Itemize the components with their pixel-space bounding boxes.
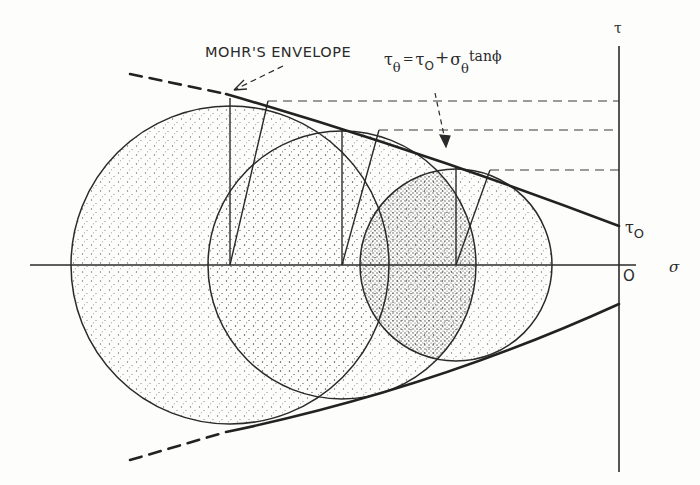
equation-arrowhead [440,135,450,147]
eq-sigma-sub: θ [461,61,469,76]
equation-leader [435,93,445,140]
eq-tau0-sub: O [424,59,433,73]
eq-equals: = [403,51,414,66]
tau-axis-label: τ [614,20,622,36]
eq-tan-phi: tanϕ [469,48,502,64]
eq-theta-sub: θ [393,60,401,75]
eq-tau: τ [384,50,393,69]
svg-text:τθ=τO+σθtanϕ: τθ=τO+σθtanϕ [384,47,501,76]
eq-tau0: τ [416,50,425,69]
mohr-diagram: MOHR'S ENVELOPE τθ=τO+σθtanϕ τ σ O τO [0,0,700,485]
origin-label: O [623,267,635,285]
eq-plus: + [435,47,449,67]
envelope-equation: τθ=τO+σθtanϕ [384,47,501,76]
lower-envelope-dashed [130,432,226,460]
eq-sigma: σ [450,50,461,69]
intercept-sub: O [634,226,644,241]
mohrs-envelope-label: MOHR'S ENVELOPE [205,44,351,60]
upper-envelope-dashed [130,74,226,94]
intercept-tau: τ [625,218,634,237]
envelope-leader [234,66,283,90]
cohesion-intercept-label: τO [625,218,644,241]
sigma-axis-label: σ [669,258,680,276]
